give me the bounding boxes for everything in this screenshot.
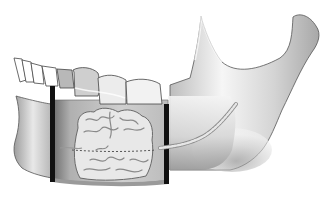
molar-1	[98, 75, 126, 104]
resection-margin-posterior	[164, 104, 169, 184]
molar-2	[126, 79, 162, 104]
teeth	[14, 58, 162, 104]
mandible-illustration	[0, 0, 332, 197]
resection-margin-anterior	[50, 86, 55, 182]
premolar-1	[57, 69, 74, 88]
lesion	[72, 108, 156, 180]
incisor-4	[42, 66, 58, 86]
